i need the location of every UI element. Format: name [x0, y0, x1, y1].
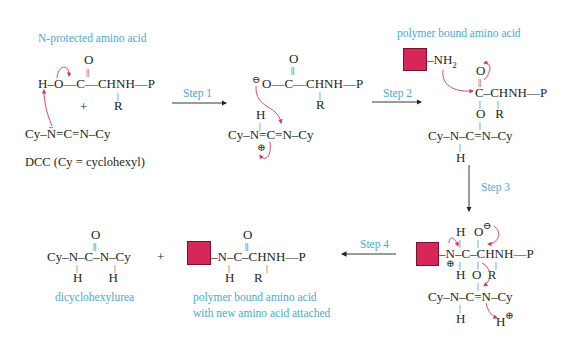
arrows-layer — [0, 0, 574, 342]
peptide-coupling-mechanism-diagram: N-protected amino acid polymer bound ami… — [0, 0, 574, 342]
